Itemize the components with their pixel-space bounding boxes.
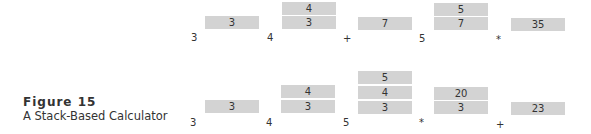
stack-cell: 7 [358,17,412,30]
stack-cell: 4 [358,86,412,99]
figure-title: Figure 15 [23,95,96,109]
stack-cell: 3 [282,16,336,29]
stack-cell: 3 [434,101,488,114]
input-token: * [496,34,501,46]
stack-cell: 7 [434,17,488,30]
input-token: 5 [343,117,349,129]
stack-cell: 3 [205,16,259,29]
stack-cell: 4 [282,2,336,15]
stack-cell: 5 [434,3,488,16]
stack-cell: 5 [358,71,412,84]
input-token: 4 [267,32,273,44]
input-token: 5 [419,33,425,45]
stack-cell: 3 [205,100,259,113]
input-token: + [496,119,504,131]
stack-cell: 23 [511,102,565,115]
stack-cell: 35 [511,18,565,31]
input-token: + [343,33,351,45]
input-token: 3 [190,117,196,129]
input-token: 4 [266,117,272,129]
input-token: * [419,117,424,129]
input-token: 3 [191,32,197,44]
stack-cell: 4 [281,85,335,98]
figure-subtitle: A Stack-Based Calculator [23,109,167,123]
stack-cell: 3 [281,100,335,113]
stack-cell: 20 [434,87,488,100]
stack-cell: 3 [358,101,412,114]
